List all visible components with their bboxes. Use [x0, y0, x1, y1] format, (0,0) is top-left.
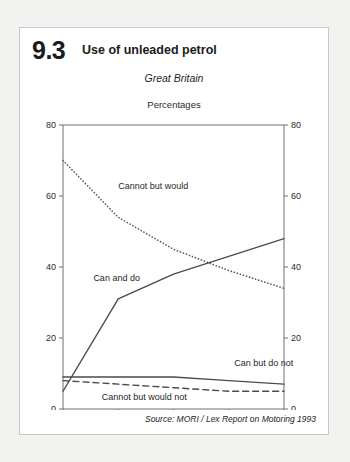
- y-axis-tick-label-left: 60: [46, 191, 56, 201]
- series-label: Can but do not: [234, 358, 294, 368]
- y-axis-tick-label-right: 40: [291, 262, 301, 272]
- series-label: Cannot but would: [118, 181, 188, 191]
- y-axis-tick-label-left: 40: [46, 262, 56, 272]
- series-line: [63, 161, 284, 289]
- y-axis-tick-label-right: 80: [291, 120, 301, 130]
- line-chart-plot: 00202040406060808019881989199019911992Ca…: [20, 70, 328, 410]
- figure-card: 9.3 Use of unleaded petrol Great Britain…: [19, 27, 329, 435]
- y-axis-tick-label-left: 80: [46, 120, 56, 130]
- series-label: Can and do: [93, 273, 140, 283]
- figure-number: 9.3: [32, 36, 65, 64]
- source-note: Source: MORI / Lex Report on Motoring 19…: [145, 414, 316, 424]
- y-axis-tick-label-left: 0: [51, 404, 56, 410]
- y-axis-tick-label-right: 0: [291, 404, 296, 410]
- series-label: Cannot but would not: [102, 392, 188, 402]
- y-axis-tick-label-right: 20: [291, 333, 301, 343]
- page-root: 9.3 Use of unleaded petrol Great Britain…: [0, 0, 350, 462]
- figure-header: 9.3 Use of unleaded petrol: [20, 34, 328, 70]
- figure-title: Use of unleaded petrol: [82, 42, 217, 58]
- chart-area: Great Britain Percentages 00202040406060…: [20, 70, 328, 410]
- y-axis-tick-label-right: 60: [291, 191, 301, 201]
- y-axis-tick-label-left: 20: [46, 333, 56, 343]
